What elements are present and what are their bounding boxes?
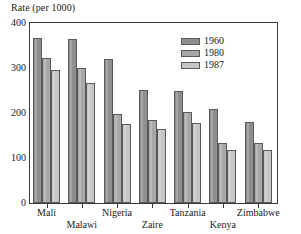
bar (245, 122, 254, 203)
bar (104, 59, 113, 203)
x-category-label-zimbabwe: Zimbabwe (237, 207, 280, 218)
legend-swatch-icon-1960 (181, 38, 200, 45)
legend-label-1987: 1987 (204, 60, 224, 70)
bar (183, 112, 192, 203)
legend-swatch-icon-1987 (181, 62, 200, 69)
x-category-label-nigeria: Nigeria (102, 207, 132, 218)
bar (113, 114, 122, 203)
bar-chart-figure: Rate (per 1000) 0100200300400 MaliMalawi… (0, 0, 301, 234)
bar (77, 68, 86, 203)
x-axis-category-labels: MaliMalawiNigeriaZaireTanzaniaKenyaZimba… (0, 206, 301, 234)
x-category-label-kenya: Kenya (210, 219, 236, 230)
x-category-label-malawi: Malawi (67, 219, 98, 230)
x-category-label-tanzania: Tanzania (170, 207, 206, 218)
x-category-label-mali: Mali (37, 207, 56, 218)
bar (254, 143, 263, 203)
bar (209, 109, 218, 203)
legend-item-1987: 1987 (181, 60, 243, 70)
bar (122, 124, 131, 203)
legend-label-1960: 1960 (204, 36, 224, 46)
bar (51, 70, 60, 203)
legend-swatch-icon-1980 (181, 50, 200, 57)
y-tick-label: 300 (0, 63, 26, 73)
y-axis-title: Rate (per 1000) (11, 2, 75, 13)
chart-legend: 1960 1980 1987 (181, 36, 243, 72)
legend-item-1980: 1980 (181, 48, 243, 58)
bar (263, 150, 272, 203)
bar (68, 39, 77, 203)
bar (227, 150, 236, 203)
bar (157, 129, 166, 203)
y-tick-label: 200 (0, 108, 26, 118)
y-tick-label: 400 (0, 18, 26, 28)
bar (42, 58, 51, 203)
y-axis-tick-labels: 0100200300400 (0, 22, 26, 204)
bar (139, 90, 148, 203)
bar (86, 83, 95, 203)
x-category-label-zaire: Zaire (142, 219, 163, 230)
bar (174, 91, 183, 203)
legend-item-1960: 1960 (181, 36, 243, 46)
bar (148, 120, 157, 203)
legend-label-1980: 1980 (204, 48, 224, 58)
bar (218, 143, 227, 203)
y-tick-label: 100 (0, 153, 26, 163)
bar (192, 123, 201, 203)
bar (33, 38, 42, 203)
